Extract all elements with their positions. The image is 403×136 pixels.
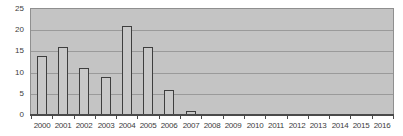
x-tick bbox=[95, 116, 96, 119]
x-label-2008: 2008 bbox=[201, 121, 223, 131]
x-tick bbox=[74, 116, 75, 119]
x-tick bbox=[372, 116, 373, 119]
x-tick bbox=[137, 116, 138, 119]
x-tick bbox=[31, 116, 32, 119]
x-label-2000: 2000 bbox=[31, 121, 53, 131]
x-label-2013: 2013 bbox=[307, 121, 329, 131]
x-label-2012: 2012 bbox=[286, 121, 308, 131]
x-label-2002: 2002 bbox=[73, 121, 95, 131]
y-label-20: 20 bbox=[0, 25, 27, 35]
x-label-2001: 2001 bbox=[52, 121, 74, 131]
x-tick bbox=[52, 116, 53, 119]
x-axis-line bbox=[30, 114, 394, 116]
bar-2000 bbox=[37, 56, 47, 115]
x-label-2003: 2003 bbox=[95, 121, 117, 131]
bar-2001 bbox=[58, 47, 68, 115]
x-tick bbox=[350, 116, 351, 119]
bar-2003 bbox=[101, 77, 111, 115]
bar-2005 bbox=[143, 47, 153, 115]
bar-2006 bbox=[164, 90, 174, 115]
y-label-25: 25 bbox=[0, 4, 27, 14]
x-label-2016: 2016 bbox=[371, 121, 393, 131]
x-label-2014: 2014 bbox=[329, 121, 351, 131]
x-tick bbox=[244, 116, 245, 119]
gridline bbox=[31, 30, 393, 31]
x-label-2006: 2006 bbox=[158, 121, 180, 131]
x-tick bbox=[308, 116, 309, 119]
x-tick bbox=[180, 116, 181, 119]
y-label-10: 10 bbox=[0, 68, 27, 78]
y-label-0: 0 bbox=[0, 110, 27, 120]
gridline bbox=[31, 51, 393, 52]
y-label-15: 15 bbox=[0, 46, 27, 56]
bar-chart-figure: 0510152025 20002001200220032004200520062… bbox=[0, 0, 403, 136]
x-tick bbox=[287, 116, 288, 119]
x-label-2007: 2007 bbox=[180, 121, 202, 131]
x-tick bbox=[265, 116, 266, 119]
x-label-2004: 2004 bbox=[116, 121, 138, 131]
x-label-2010: 2010 bbox=[244, 121, 266, 131]
x-tick bbox=[329, 116, 330, 119]
bar-2004 bbox=[122, 26, 132, 115]
x-tick bbox=[223, 116, 224, 119]
y-label-5: 5 bbox=[0, 89, 27, 99]
x-label-2009: 2009 bbox=[222, 121, 244, 131]
x-label-2005: 2005 bbox=[137, 121, 159, 131]
x-label-2011: 2011 bbox=[265, 121, 287, 131]
x-tick bbox=[159, 116, 160, 119]
x-label-2015: 2015 bbox=[350, 121, 372, 131]
x-tick bbox=[393, 116, 394, 119]
x-tick bbox=[116, 116, 117, 119]
bar-2002 bbox=[79, 68, 89, 115]
x-tick bbox=[201, 116, 202, 119]
